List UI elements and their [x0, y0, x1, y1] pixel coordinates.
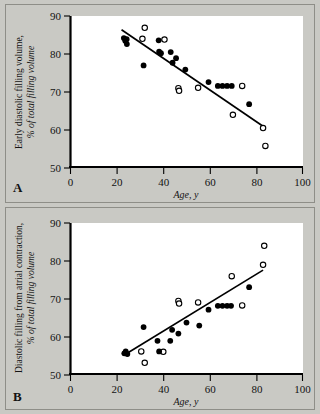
panel-a-ytick-50: 50 — [50, 162, 62, 174]
data-point-open — [176, 88, 181, 93]
data-point-open — [262, 243, 267, 248]
data-point-open — [263, 143, 268, 148]
panel-b-ytick-50: 50 — [50, 369, 62, 381]
panel-a-x-ticks — [71, 168, 303, 174]
data-point-filled — [182, 67, 188, 73]
data-point-filled — [141, 63, 147, 69]
panel-a-ytick-80: 80 — [50, 48, 62, 60]
panel-a-xtick-80: 80 — [251, 176, 263, 188]
panel-b-ytick-90: 90 — [50, 217, 62, 229]
data-point-filled — [158, 50, 164, 56]
data-point-open — [195, 300, 200, 305]
panel-a-ytick-70: 70 — [50, 86, 62, 98]
data-point-filled — [168, 49, 174, 55]
panel-b-plot-background — [70, 223, 303, 375]
panel-b-y-ticks — [64, 223, 70, 375]
panel-a-ytick-90: 90 — [50, 10, 62, 22]
data-point-filled — [228, 303, 234, 309]
data-point-filled — [156, 37, 162, 43]
data-point-filled — [167, 338, 173, 344]
panel-a-ytick-60: 60 — [50, 124, 62, 136]
data-point-filled — [175, 331, 181, 337]
panel-b: Diastolic filling from atrial contractio… — [0, 207, 320, 414]
data-point-open — [176, 301, 181, 306]
panel-b-x-ticks — [71, 375, 303, 381]
data-point-filled — [246, 284, 252, 290]
data-point-open — [142, 360, 147, 365]
data-point-open — [139, 349, 144, 354]
data-point-open — [260, 125, 265, 130]
panel-b-xtick-20: 20 — [112, 383, 124, 395]
panel-b-y-tick-labels: 50 60 70 80 90 — [50, 217, 62, 381]
panel-b-ytick-60: 60 — [50, 331, 62, 343]
figure-container: Early diastolic filling volume, % of tot… — [0, 0, 320, 414]
data-point-filled — [173, 55, 179, 61]
data-point-open — [195, 85, 200, 90]
data-point-open — [230, 112, 235, 117]
data-point-filled — [170, 60, 176, 66]
data-point-filled — [124, 36, 130, 42]
panel-b-letter: B — [13, 389, 22, 405]
panel-a-xtick-20: 20 — [112, 176, 124, 188]
panel-a-xtick-40: 40 — [158, 176, 170, 188]
panel-b-ytick-80: 80 — [50, 255, 62, 267]
panel-a-y-ticks — [64, 16, 70, 168]
panel-a-xtick-60: 60 — [205, 176, 217, 188]
data-point-open — [239, 303, 244, 308]
panel-b-x-axis-label: Age, y — [126, 396, 246, 407]
data-point-filled — [141, 324, 147, 330]
data-point-filled — [124, 41, 130, 47]
panel-b-xtick-0: 0 — [68, 383, 74, 395]
data-point-open — [142, 25, 147, 30]
panel-b-xtick-100: 100 — [294, 383, 311, 395]
data-point-filled — [155, 338, 161, 344]
panel-b-ytick-70: 70 — [50, 293, 62, 305]
data-point-filled — [196, 323, 202, 329]
panel-a-y-tick-labels: 50 60 70 80 90 — [50, 10, 62, 174]
data-point-filled — [184, 320, 190, 326]
panel-b-xtick-40: 40 — [158, 383, 170, 395]
data-point-open — [140, 36, 145, 41]
data-point-filled — [169, 327, 175, 333]
panel-b-plot: 50 60 70 80 90 0 20 40 60 80 100 — [0, 207, 320, 414]
data-point-filled — [246, 101, 252, 107]
data-point-filled — [124, 351, 130, 357]
panel-a-x-tick-labels: 0 20 40 60 80 100 — [68, 176, 312, 188]
data-point-filled — [206, 307, 212, 313]
panel-a-letter: A — [13, 180, 22, 196]
data-point-open — [162, 37, 167, 42]
panel-b-xtick-80: 80 — [251, 383, 263, 395]
data-point-open — [229, 274, 234, 279]
panel-b-x-tick-labels: 0 20 40 60 80 100 — [68, 383, 312, 395]
panel-a-xtick-0: 0 — [68, 176, 74, 188]
data-point-open — [239, 83, 244, 88]
data-point-filled — [206, 79, 212, 85]
panel-b-xtick-60: 60 — [205, 383, 217, 395]
panel-a-xtick-100: 100 — [294, 176, 311, 188]
data-point-filled — [156, 349, 162, 355]
data-point-open — [260, 262, 265, 267]
data-point-filled — [229, 83, 235, 89]
panel-a-x-axis-label: Age, y — [126, 189, 246, 200]
panel-a-plot: 50 60 70 80 90 0 20 40 60 80 10 — [0, 0, 320, 207]
panel-a: Early diastolic filling volume, % of tot… — [0, 0, 320, 207]
